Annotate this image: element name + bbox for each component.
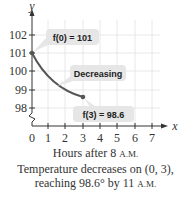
svg-text:4: 4 (97, 131, 103, 145)
svg-text:f(0) = 101: f(0) = 101 (53, 33, 92, 43)
svg-text:2: 2 (62, 131, 68, 145)
x-tick-labels: 0 1 2 3 4 5 6 7 (29, 131, 155, 145)
annotation-f3: f(3) = 98.6 (73, 98, 134, 122)
y-axis (29, 9, 35, 126)
caption-line-1: Temperature decreases on (0, 3), (0, 162, 191, 176)
y-axis-letter: y (28, 0, 35, 13)
svg-text:99: 99 (15, 83, 27, 97)
svg-text:f(3) = 98.6: f(3) = 98.6 (83, 110, 125, 120)
svg-text:Decreasing: Decreasing (74, 69, 123, 79)
svg-text:6: 6 (132, 131, 138, 145)
y-tick-labels: 102 101 100 99 98 (9, 28, 27, 115)
svg-text:102: 102 (9, 28, 27, 42)
x-axis-title: Hours after 8 A.M. (0, 146, 191, 161)
caption-line-2: reaching 98.6° by 11 A.M. (0, 176, 191, 191)
svg-text:101: 101 (9, 46, 27, 60)
x-axis (32, 123, 168, 129)
annotation-f0: f(0) = 101 (33, 29, 99, 52)
x-axis-letter: x (171, 119, 178, 133)
x-axis-arrow-icon (161, 124, 168, 129)
svg-text:0: 0 (29, 131, 35, 145)
svg-text:100: 100 (9, 64, 27, 78)
svg-text:3: 3 (80, 131, 86, 145)
svg-text:1: 1 (45, 131, 51, 145)
svg-text:7: 7 (149, 131, 155, 145)
annotation-decreasing: Decreasing (57, 65, 126, 86)
svg-text:98: 98 (15, 101, 27, 115)
svg-text:5: 5 (114, 131, 120, 145)
